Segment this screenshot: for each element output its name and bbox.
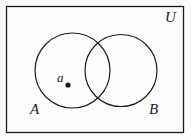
- venn-diagram-canvas: [0, 0, 191, 140]
- set-b-label: B: [149, 102, 158, 117]
- set-a-circle: [35, 33, 110, 108]
- set-b-circle: [85, 35, 157, 107]
- universe-label: U: [165, 10, 176, 25]
- set-a-label: A: [30, 102, 39, 117]
- venn-diagram-figure: U A B a: [0, 0, 191, 140]
- element-a-label: a: [57, 71, 64, 84]
- element-a-point: [65, 82, 70, 87]
